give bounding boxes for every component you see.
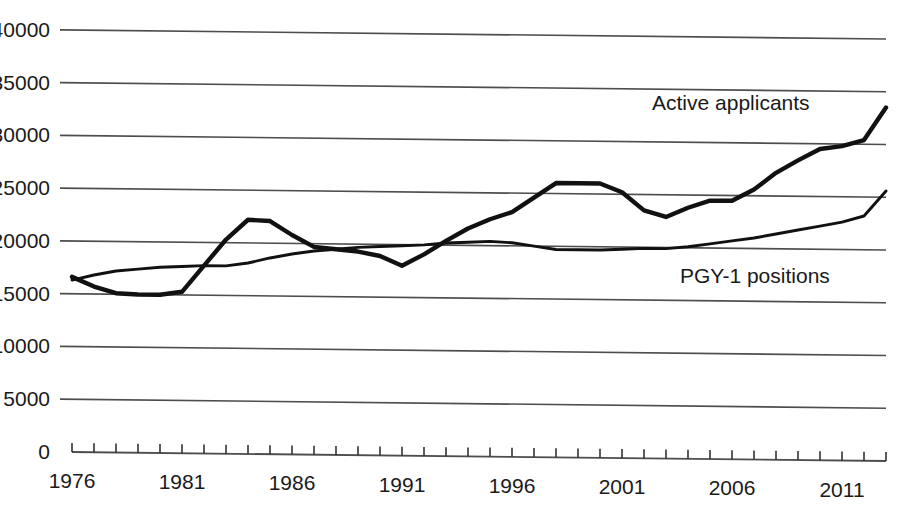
- series-label-active-applicants: Active applicants: [652, 91, 810, 114]
- y-axis-tick-label: 35000: [0, 71, 50, 94]
- series-label-pgy-1-positions: PGY-1 positions: [680, 264, 830, 287]
- x-axis-tick-label: 1981: [159, 470, 206, 493]
- gridline: [60, 135, 886, 144]
- gridline: [60, 294, 886, 303]
- gridline: [60, 399, 886, 408]
- series-annotations: Active applicantsPGY-1 positions: [652, 91, 830, 287]
- chart-container: 0500010000150002000025000300003500040000…: [0, 0, 898, 518]
- x-axis-tick-label: 1976: [49, 469, 96, 492]
- line-chart: 0500010000150002000025000300003500040000…: [0, 0, 898, 518]
- x-axis: [72, 443, 886, 461]
- x-axis-tick-label: 2001: [599, 475, 646, 498]
- y-axis-tick-label: 5000: [3, 387, 50, 410]
- y-axis-tick-label: 20000: [0, 229, 50, 252]
- x-axis-tick-label: 1996: [489, 474, 536, 497]
- y-axis-tick-label: 10000: [0, 334, 50, 357]
- x-axis-tick-label: 1986: [269, 471, 316, 494]
- y-axis-tick-labels: 0500010000150002000025000300003500040000: [0, 18, 50, 463]
- y-axis-tick-label: 30000: [0, 123, 50, 146]
- x-axis-tick-label: 1991: [379, 473, 426, 496]
- x-axis-tick-label: 2011: [819, 478, 864, 501]
- gridline: [60, 188, 886, 197]
- y-axis-tick-label: 40000: [0, 18, 50, 41]
- gridline: [60, 346, 886, 355]
- y-axis-tick-label: 25000: [0, 176, 50, 199]
- y-axis-tick-label: 0: [38, 440, 50, 463]
- x-axis-tick-labels: 19761981198619911996200120062011: [49, 469, 865, 501]
- gridline: [60, 30, 886, 39]
- gridlines: [60, 30, 886, 408]
- x-axis-line: [72, 452, 886, 461]
- x-axis-tick-label: 2006: [709, 476, 756, 499]
- y-axis-tick-label: 15000: [0, 282, 50, 305]
